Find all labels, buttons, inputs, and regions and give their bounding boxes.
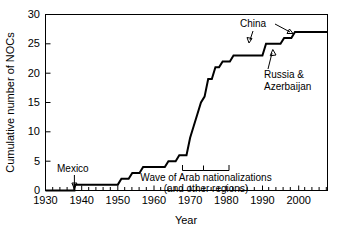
arab-nationalizations-bracket: [183, 165, 230, 171]
arab-caption-line2: (and other regions): [164, 183, 249, 194]
china-arrow-line: [275, 24, 290, 32]
x-tick-label-1950: 1950: [106, 194, 130, 206]
y-axis: 0 5 10 15 20 25 30: [28, 8, 51, 196]
x-tick-label-1930: 1930: [33, 194, 57, 206]
russia-arrow-head: [270, 50, 276, 56]
annotation-mexico-label: Mexico: [57, 163, 89, 174]
y-tick-label-10: 10: [28, 125, 40, 137]
x-tick-label-1960: 1960: [142, 194, 166, 206]
y-tick-label-15: 15: [28, 96, 40, 108]
annotation-china-label: China: [240, 18, 267, 29]
y-tick-label-20: 20: [28, 67, 40, 79]
x-tick-label-1970: 1970: [178, 194, 202, 206]
x-tick-label-2000: 2000: [286, 194, 310, 206]
y-tick-label-25: 25: [28, 37, 40, 49]
y-tick-label-5: 5: [34, 155, 40, 167]
x-tick-label-1980: 1980: [214, 194, 238, 206]
x-axis-title: Year: [175, 214, 198, 226]
annotation-russia-label-line1: Russia &: [264, 69, 304, 80]
x-tick-label-1990: 1990: [250, 194, 274, 206]
noc-cumulative-chart: 0 5 10 15 20 25 30 Cumulative number of …: [0, 0, 344, 242]
china-arrow-head: [287, 29, 293, 34]
chart-container: 0 5 10 15 20 25 30 Cumulative number of …: [0, 0, 344, 242]
y-tick-label-30: 30: [28, 8, 40, 20]
china-arrow-head-2: [247, 38, 252, 44]
annotation-russia-azerbaijan: Russia & Azerbaijan: [264, 50, 311, 93]
x-tick-label-1940: 1940: [69, 194, 93, 206]
annotation-arab-nationalizations: Wave of Arab nationalizations (and other…: [140, 165, 271, 194]
annotation-china: China: [240, 18, 293, 43]
arab-caption-line1: Wave of Arab nationalizations: [140, 172, 271, 183]
annotation-russia-label-line2: Azerbaijan: [264, 81, 311, 92]
y-axis-title: Cumulative number of NOCs: [4, 32, 16, 173]
